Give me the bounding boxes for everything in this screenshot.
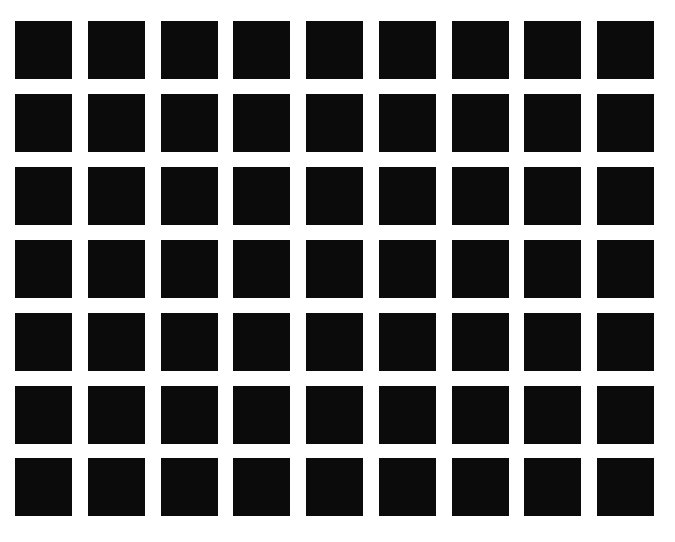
grid-square: [597, 386, 654, 444]
grid-square: [161, 21, 218, 79]
grid-square: [306, 240, 363, 298]
grid-square: [524, 21, 581, 79]
grid-square: [15, 94, 72, 152]
grid-square: [233, 21, 290, 79]
grid-square: [379, 458, 436, 516]
grid-square: [379, 240, 436, 298]
grid-square: [452, 94, 509, 152]
grid-square: [161, 458, 218, 516]
grid-square: [597, 94, 654, 152]
grid-square: [15, 458, 72, 516]
grid-square: [306, 94, 363, 152]
grid-square: [379, 94, 436, 152]
grid-square: [233, 167, 290, 225]
grid-square: [306, 313, 363, 371]
grid-square: [15, 240, 72, 298]
grid-square: [88, 458, 145, 516]
grid-square: [88, 167, 145, 225]
grid-square: [524, 386, 581, 444]
grid-square: [524, 313, 581, 371]
grid-square: [233, 386, 290, 444]
grid-square: [597, 21, 654, 79]
grid-square: [597, 313, 654, 371]
grid-square: [233, 458, 290, 516]
grid-square: [597, 458, 654, 516]
grid-square: [161, 167, 218, 225]
grid-square: [524, 167, 581, 225]
grid-square: [88, 94, 145, 152]
grid-square: [233, 313, 290, 371]
grid-square: [452, 458, 509, 516]
grid-square: [306, 458, 363, 516]
grid-square: [452, 240, 509, 298]
grid-square: [88, 386, 145, 444]
grid-square: [379, 386, 436, 444]
grid-square: [524, 458, 581, 516]
grid-square: [379, 167, 436, 225]
grid-square: [161, 240, 218, 298]
grid-square: [15, 167, 72, 225]
grid-square: [306, 21, 363, 79]
grid-square: [597, 167, 654, 225]
grid-square: [452, 167, 509, 225]
grid-square: [15, 21, 72, 79]
grid-square: [524, 94, 581, 152]
grid-square: [379, 313, 436, 371]
grid-square: [15, 386, 72, 444]
grid-square: [306, 167, 363, 225]
grid-square: [15, 313, 72, 371]
grid-square: [88, 240, 145, 298]
grid-square: [161, 386, 218, 444]
grid-square: [597, 240, 654, 298]
grid-square: [161, 94, 218, 152]
grid-square: [379, 21, 436, 79]
grid-square: [452, 386, 509, 444]
grid-square: [306, 386, 363, 444]
grid-square: [524, 240, 581, 298]
grid-square: [233, 240, 290, 298]
grid-square: [161, 313, 218, 371]
grid-square: [88, 21, 145, 79]
grid-square: [88, 313, 145, 371]
grid-square: [452, 313, 509, 371]
grid-square: [452, 21, 509, 79]
grid-square: [233, 94, 290, 152]
